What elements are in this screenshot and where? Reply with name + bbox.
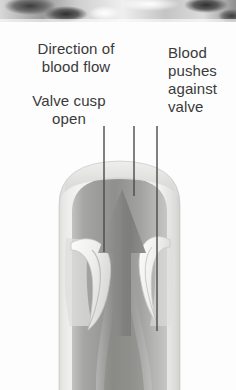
figure-vein-valve: Direction of blood flow Valve cusp open …: [0, 0, 236, 390]
vein-valve-illustration: [0, 0, 236, 390]
